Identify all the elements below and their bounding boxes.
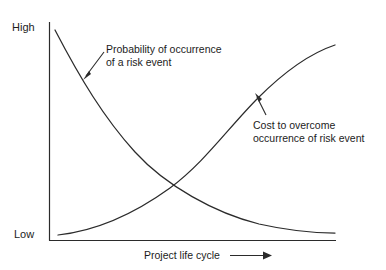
probability-callout-arrow [83,52,104,80]
annotation-cost-to-overcome: Cost to overcome occurrence of risk even… [253,119,364,144]
x-axis-title: Project life cycle [144,249,220,262]
risk-vs-cost-chart: High Low Project life cycle Probability … [0,0,386,270]
annotation-probability-line2: of a risk event [106,56,222,69]
y-axis-low-label: Low [14,228,34,241]
annotation-probability-line1: Probability of occurrence [106,43,222,55]
y-axis-high-label: High [12,21,35,34]
x-axis-arrow-icon [230,252,272,260]
annotation-probability-of-occurrence: Probability of occurrence of a risk even… [106,43,222,68]
annotation-cost-line2: occurrence of risk event [253,132,364,145]
annotation-cost-line1: Cost to overcome [253,119,335,131]
